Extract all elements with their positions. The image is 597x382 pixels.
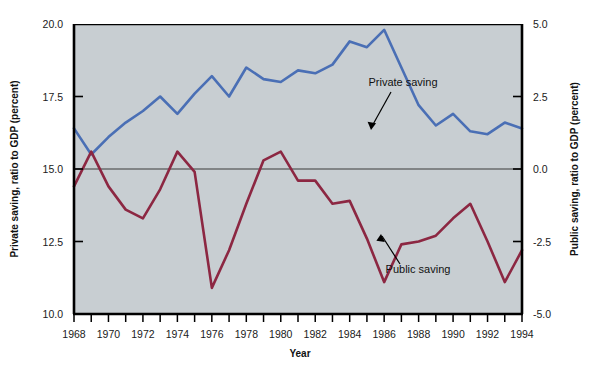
x-tick-label-1978: 1978 [235, 328, 259, 340]
left-axis-title: Private saving, ratio to GDP (percent) [9, 80, 20, 257]
x-tick-label-1970: 1970 [97, 328, 121, 340]
y-left-tick-label-20.0: 20.0 [43, 18, 64, 30]
x-tick-label-1980: 1980 [269, 328, 293, 340]
x-tick-label-1976: 1976 [200, 328, 224, 340]
x-tick-label-1992: 1992 [476, 328, 500, 340]
y-right-tick-label--5.0: -5.0 [533, 308, 551, 320]
x-tick-label-1986: 1986 [372, 328, 396, 340]
y-right-tick-label-2.5: 2.5 [533, 91, 548, 103]
y-left-tick-label-12.5: 12.5 [43, 236, 64, 248]
y-left-tick-label-15.0: 15.0 [43, 163, 64, 175]
x-tick-label-1982: 1982 [304, 328, 328, 340]
x-tick-label-1974: 1974 [166, 328, 190, 340]
y-right-tick-label-0.0: 0.0 [533, 163, 548, 175]
x-tick-label-1984: 1984 [338, 328, 362, 340]
x-tick-label-1972: 1972 [131, 328, 155, 340]
y-right-tick-label--2.5: -2.5 [533, 236, 551, 248]
y-right-tick-label-5.0: 5.0 [533, 18, 548, 30]
x-tick-label-1994: 1994 [510, 328, 534, 340]
y-left-tick-label-17.5: 17.5 [43, 91, 64, 103]
right-axis-title: Public saving, ratio to GDP (percent) [569, 82, 580, 256]
x-tick-label-1988: 1988 [407, 328, 431, 340]
private-saving-annotation-label: Private saving [368, 76, 437, 88]
x-tick-label-1990: 1990 [441, 328, 465, 340]
y-left-tick-label-10.0: 10.0 [43, 308, 64, 320]
x-tick-label-1968: 1968 [62, 328, 86, 340]
public-saving-annotation-label: Public saving [386, 263, 451, 275]
savings-ratio-chart: 1968197019721974197619781980198219841986… [0, 0, 597, 382]
x-axis-title: Year [289, 348, 310, 359]
